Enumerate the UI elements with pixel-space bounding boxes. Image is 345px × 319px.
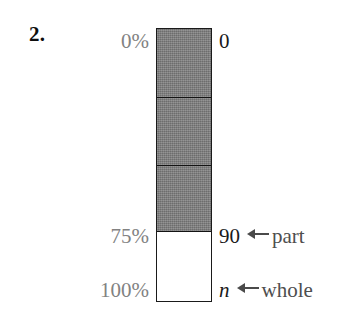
value-label-0-text: 0 (219, 31, 230, 52)
value-label-part: 90 part (219, 226, 305, 247)
part-value-text: 90 (219, 226, 240, 247)
arrow-left-icon (237, 283, 259, 293)
percent-bar-figure: 2. 0% 75% 100% 0 90 part n whole (0, 0, 345, 319)
bar-divider-1 (157, 97, 211, 98)
percent-label-75: 75% (111, 226, 150, 247)
problem-number: 2. (29, 22, 45, 47)
percent-bar (156, 28, 212, 302)
value-label-0: 0 (219, 31, 230, 52)
bar-unshaded-region (157, 232, 211, 301)
percent-label-0: 0% (121, 31, 149, 52)
bar-shaded-region (157, 29, 211, 232)
whole-value-text: n (219, 280, 230, 301)
percent-label-100: 100% (100, 280, 149, 301)
bar-divider-2 (157, 165, 211, 166)
part-tag-text: part (272, 226, 305, 247)
arrow-left-icon (247, 229, 269, 239)
whole-tag-text: whole (262, 280, 313, 301)
value-label-whole: n whole (219, 280, 313, 301)
